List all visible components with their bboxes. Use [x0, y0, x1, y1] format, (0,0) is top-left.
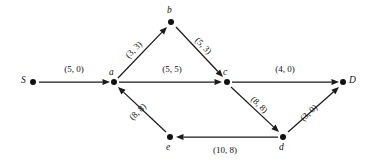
node-dot-c: [224, 79, 230, 85]
node-dot-e: [167, 134, 173, 140]
edge-c-D: [232, 79, 339, 85]
graph-canvas: [0, 0, 366, 166]
node-dot-a: [111, 79, 117, 85]
arrow-head-icon: [332, 79, 340, 85]
network-flow-diagram: SabcdeD (5, 0)(3, 3)(5, 3)(5, 5)(4, 0)(8…: [0, 0, 366, 166]
node-dot-b: [168, 19, 174, 25]
node-label-S: S: [21, 76, 26, 86]
node-dot-d: [280, 134, 286, 140]
node-label-b: b: [167, 6, 172, 16]
edges-layer: [39, 27, 339, 140]
node-label-c: c: [223, 68, 227, 78]
edge-label-S-a: (5, 0): [64, 65, 84, 74]
arrow-head-icon: [103, 79, 111, 85]
edge-label-a-c: (5, 5): [162, 65, 182, 74]
arrow-head-icon: [215, 79, 223, 85]
node-dot-D: [340, 79, 346, 85]
node-label-a: a: [109, 68, 114, 78]
edge-label-d-e: (10, 8): [213, 146, 237, 155]
node-label-D: D: [349, 76, 356, 86]
node-dot-S: [30, 79, 36, 85]
edge-a-c: [119, 79, 222, 85]
arrow-head-icon: [176, 134, 184, 140]
edge-S-a: [39, 79, 110, 85]
edge-d-e: [176, 134, 278, 140]
node-label-d: d: [279, 143, 284, 153]
node-label-e: e: [166, 143, 170, 153]
edge-label-c-D: (4, 0): [275, 65, 295, 74]
